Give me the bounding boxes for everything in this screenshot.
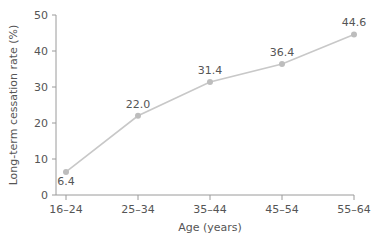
data-point-marker [279, 61, 285, 67]
figure-caption-cutoff [0, 240, 120, 244]
y-tick-label: 10 [34, 153, 48, 166]
x-tick-label: 45–54 [265, 203, 299, 216]
y-axis-title: Long-term cessation rate (%) [7, 25, 20, 186]
data-label: 31.4 [198, 64, 223, 77]
y-axis: 01020304050 [34, 9, 56, 202]
line-chart: 01020304050 16–2425–3435–4445–5455–64 6.… [0, 0, 375, 244]
y-tick-label: 20 [34, 117, 48, 130]
x-axis-title: Age (years) [178, 221, 242, 234]
x-axis: 16–2425–3435–4445–5455–64 [49, 195, 371, 216]
data-label: 36.4 [270, 46, 295, 59]
y-tick-label: 50 [34, 9, 48, 22]
y-tick-label: 0 [41, 189, 48, 202]
data-point-marker [351, 31, 357, 37]
y-tick-label: 40 [34, 45, 48, 58]
data-point-marker [135, 113, 141, 119]
series-line [66, 34, 354, 172]
x-tick-label: 16–24 [49, 203, 83, 216]
x-tick-label: 35–44 [193, 203, 227, 216]
data-label: 6.4 [57, 175, 75, 188]
x-tick-label: 25–34 [121, 203, 155, 216]
data-label: 44.6 [342, 16, 367, 29]
data-label: 22.0 [126, 98, 151, 111]
y-tick-label: 30 [34, 81, 48, 94]
data-series: 6.422.031.436.444.6 [57, 16, 366, 188]
data-point-marker [207, 79, 213, 85]
x-tick-label: 55–64 [337, 203, 371, 216]
